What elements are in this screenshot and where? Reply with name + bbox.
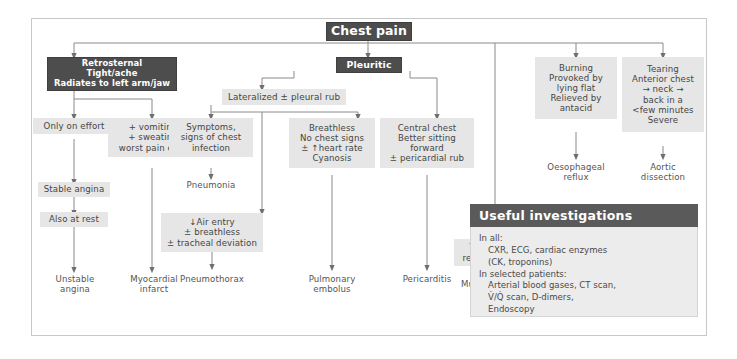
useful-investigations-body: In all: CXR, ECG, cardiac enzymes (CK, t… bbox=[470, 227, 698, 317]
node-aortic-dissection[interactable]: Aortic dissection bbox=[626, 160, 700, 184]
node-line: ↓Air entry bbox=[189, 217, 234, 227]
node-line: No chest signs bbox=[300, 133, 364, 143]
node-line: ± pericardial rub bbox=[390, 153, 464, 163]
node-line: Anterior chest bbox=[632, 74, 694, 84]
node-oesophageal-reflux[interactable]: Oesophageal reflux bbox=[534, 160, 618, 184]
node-also-at-rest[interactable]: Also at rest bbox=[40, 212, 108, 227]
useful-investigations-panel: Useful investigations In all: CXR, ECG, … bbox=[470, 204, 698, 317]
node-line: Tearing bbox=[647, 64, 679, 74]
node-line: Oesophageal bbox=[547, 162, 604, 172]
node-line: back in a bbox=[643, 95, 683, 105]
node-only-on-effort[interactable]: Only on effort bbox=[33, 118, 115, 134]
inv-line: In all: bbox=[479, 233, 690, 245]
node-line: signs of chest bbox=[181, 132, 242, 142]
node-line: Breathless bbox=[309, 123, 355, 133]
node-line: dissection bbox=[641, 172, 685, 182]
node-burning-reflux-features[interactable]: Burning Provoked by lying flat Relieved … bbox=[535, 57, 617, 119]
inv-line: Endoscopy bbox=[479, 304, 690, 316]
node-line: forward bbox=[410, 143, 444, 153]
node-line: lying flat bbox=[557, 83, 596, 93]
node-pleuritic[interactable]: Pleuritic bbox=[336, 57, 402, 73]
node-line: Pulmonary bbox=[309, 274, 356, 284]
node-line: Relieved by bbox=[550, 93, 601, 103]
node-stable-angina[interactable]: Stable angina bbox=[38, 182, 110, 197]
node-line: reflux bbox=[563, 172, 588, 182]
node-chest-pain[interactable]: Chest pain bbox=[326, 22, 412, 41]
node-line: ± ↑heart rate bbox=[301, 143, 363, 153]
useful-investigations-heading: Useful investigations bbox=[470, 204, 698, 227]
node-central-chest[interactable]: Central chest Better sitting forward ± p… bbox=[380, 118, 474, 168]
node-line: ± breathless bbox=[184, 227, 240, 237]
node-line: Cyanosis bbox=[312, 153, 351, 163]
node-line: infection bbox=[192, 143, 230, 153]
node-line: Burning bbox=[559, 63, 593, 73]
node-line: Also at rest bbox=[49, 214, 99, 224]
node-line: Pleuritic bbox=[346, 59, 391, 70]
inv-line: In selected patients: bbox=[479, 269, 690, 281]
node-line: <few minutes bbox=[632, 105, 693, 115]
node-breathless-cyanosis[interactable]: Breathless No chest signs ± ↑heart rate … bbox=[289, 118, 375, 168]
node-line: antacid bbox=[560, 103, 593, 113]
node-line: infarct bbox=[140, 284, 168, 294]
node-line: embolus bbox=[313, 284, 350, 294]
node-line: Pneumothorax bbox=[180, 274, 244, 284]
node-line: → neck → bbox=[642, 84, 683, 94]
node-chest-infection[interactable]: Symptoms, signs of chest infection bbox=[169, 118, 253, 157]
node-line: Stable angina bbox=[44, 184, 105, 194]
node-pneumothorax[interactable]: Pneumothorax bbox=[168, 272, 256, 286]
node-unstable-angina[interactable]: Unstable angina bbox=[42, 272, 108, 296]
node-line: Central chest bbox=[398, 123, 457, 133]
node-line: ± tracheal deviation bbox=[167, 238, 257, 248]
node-line: angina bbox=[60, 284, 90, 294]
node-line: Radiates to left arm/jaw bbox=[54, 79, 170, 89]
node-air-entry[interactable]: ↓Air entry ± breathless ± tracheal devia… bbox=[161, 213, 263, 252]
node-line: Severe bbox=[648, 115, 678, 125]
diagram-canvas: Chest pain Retrosternal Tight/ache Radia… bbox=[0, 0, 737, 359]
node-retrosternal[interactable]: Retrosternal Tight/ache Radiates to left… bbox=[47, 57, 177, 91]
node-label: Chest pain bbox=[331, 24, 407, 39]
node-pulmonary-embolus[interactable]: Pulmonary embolus bbox=[296, 272, 368, 296]
node-pneumonia[interactable]: Pneumonia bbox=[177, 178, 245, 192]
node-line: Only on effort bbox=[44, 121, 105, 131]
node-line: Aortic bbox=[650, 162, 676, 172]
inv-line: Arterial blood gases, CT scan, bbox=[479, 280, 690, 292]
inv-line: V̇/Q̇ scan, D-dimers, bbox=[479, 292, 690, 304]
node-line: Pericarditis bbox=[403, 274, 452, 284]
node-line: Lateralized ± pleural rub bbox=[228, 92, 340, 102]
node-line: Better sitting bbox=[398, 133, 456, 143]
node-line: Unstable bbox=[56, 274, 95, 284]
node-line: Symptoms, bbox=[186, 122, 235, 132]
node-line: Pneumonia bbox=[187, 180, 236, 190]
inv-line: (CK, troponins) bbox=[479, 257, 690, 269]
node-line: Provoked by bbox=[549, 73, 603, 83]
node-lateralized[interactable]: Lateralized ± pleural rub bbox=[222, 89, 346, 105]
node-tearing-dissection-features[interactable]: Tearing Anterior chest → neck → back in … bbox=[622, 57, 704, 132]
inv-line: CXR, ECG, cardiac enzymes bbox=[479, 245, 690, 257]
